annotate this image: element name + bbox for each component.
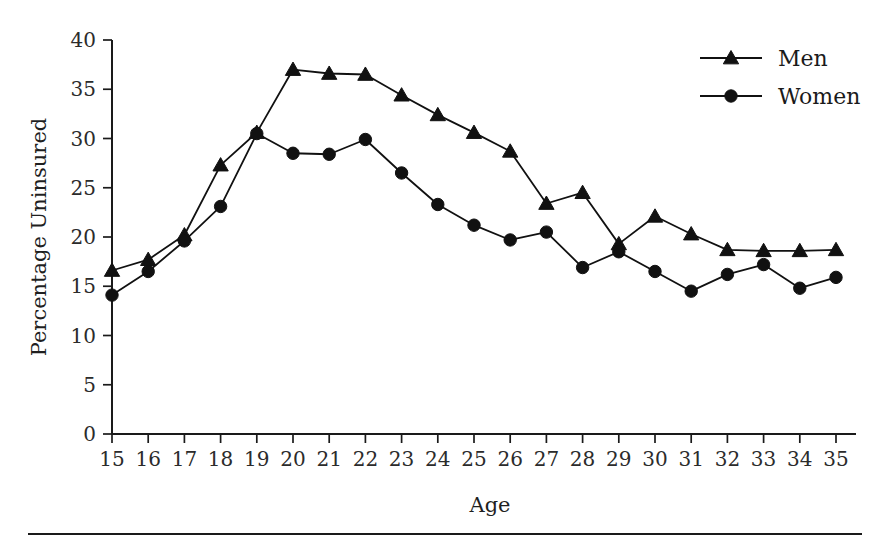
circle-marker	[794, 282, 806, 294]
circle-marker	[142, 265, 154, 277]
figure-container: Percentage Uninsured Age 051015202530354…	[0, 0, 890, 547]
triangle-marker	[141, 252, 156, 265]
x-tick-label: 33	[751, 447, 776, 471]
legend-label-men: Men	[778, 46, 828, 71]
legend-label-women: Women	[778, 84, 860, 109]
x-tick-label: 31	[678, 447, 703, 471]
circle-marker	[251, 127, 263, 139]
circle-marker	[649, 265, 661, 277]
y-axis-ticks: 0510152025303540	[71, 28, 112, 446]
triangle-marker	[575, 185, 590, 198]
circle-marker	[685, 285, 697, 297]
x-axis-title: Age	[468, 493, 510, 517]
circle-marker	[540, 226, 552, 238]
triangle-marker	[503, 144, 518, 157]
uninsured-by-age-line-chart: Percentage Uninsured Age 051015202530354…	[0, 0, 890, 547]
circle-marker	[395, 167, 407, 179]
y-tick-label: 10	[71, 324, 96, 348]
y-tick-label: 15	[71, 274, 96, 298]
triangle-marker	[285, 62, 300, 75]
x-tick-label: 26	[497, 447, 522, 471]
x-tick-label: 28	[570, 447, 595, 471]
legend-entry-men: Men	[700, 46, 828, 71]
triangle-marker	[684, 227, 699, 240]
x-tick-label: 15	[99, 447, 124, 471]
x-tick-label: 30	[642, 447, 667, 471]
circle-marker	[106, 289, 118, 301]
x-tick-label: 27	[534, 447, 559, 471]
x-tick-label: 25	[461, 447, 486, 471]
x-tick-label: 22	[353, 447, 378, 471]
circle-marker	[725, 90, 737, 102]
y-tick-label: 30	[71, 127, 96, 151]
x-tick-label: 34	[787, 447, 812, 471]
y-tick-label: 25	[71, 176, 96, 200]
circle-marker	[468, 219, 480, 231]
series-women	[106, 127, 842, 301]
y-axis-title: Percentage Uninsured	[27, 118, 51, 357]
circle-marker	[576, 261, 588, 273]
y-tick-label: 20	[71, 225, 96, 249]
triangle-marker	[430, 107, 445, 120]
x-tick-label: 21	[316, 447, 341, 471]
circle-marker	[504, 234, 516, 246]
y-tick-label: 40	[71, 28, 96, 52]
y-tick-label: 35	[71, 77, 96, 101]
circle-marker	[721, 268, 733, 280]
x-tick-label: 19	[244, 447, 269, 471]
triangle-marker	[828, 242, 843, 255]
circle-marker	[323, 148, 335, 160]
triangle-marker	[466, 125, 481, 138]
y-tick-label: 5	[83, 373, 96, 397]
circle-marker	[432, 198, 444, 210]
x-tick-label: 29	[606, 447, 631, 471]
y-tick-label: 0	[83, 422, 96, 446]
circle-marker	[287, 147, 299, 159]
circle-marker	[214, 200, 226, 212]
x-tick-label: 24	[425, 447, 450, 471]
x-axis-ticks: 1516171819202122232425262728293031323334…	[99, 434, 848, 471]
x-tick-label: 18	[208, 447, 233, 471]
x-tick-label: 35	[823, 447, 848, 471]
circle-marker	[830, 271, 842, 283]
legend-entry-women: Women	[700, 84, 860, 109]
x-tick-label: 17	[172, 447, 197, 471]
triangle-marker	[720, 242, 735, 255]
chart-legend: MenWomen	[700, 46, 860, 109]
x-tick-label: 23	[389, 447, 414, 471]
circle-marker	[359, 133, 371, 145]
circle-marker	[757, 258, 769, 270]
circle-marker	[613, 246, 625, 258]
triangle-marker	[647, 209, 662, 222]
x-tick-label: 16	[135, 447, 160, 471]
x-tick-label: 32	[715, 447, 740, 471]
circle-marker	[178, 235, 190, 247]
x-tick-label: 20	[280, 447, 305, 471]
triangle-marker	[394, 88, 409, 101]
